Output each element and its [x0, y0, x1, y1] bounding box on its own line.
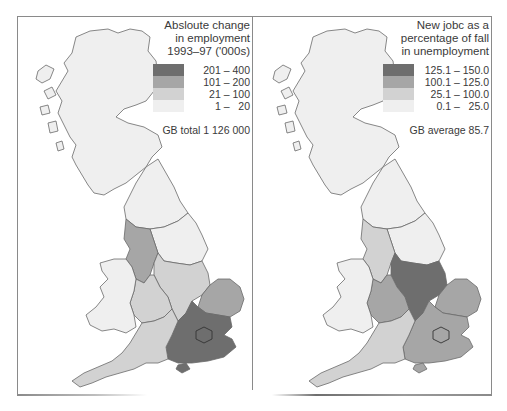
- legend-title-line-3: in unemployment: [381, 45, 489, 58]
- legend-row: 21 – 100: [150, 88, 250, 100]
- region-london: [433, 327, 449, 343]
- legend-row: 0.1 – 25.0: [381, 100, 489, 112]
- legend-label: 1 – 20: [184, 100, 250, 113]
- legend-swatch: [383, 100, 414, 112]
- legend-swatch: [383, 64, 414, 76]
- frame-right-edge: [491, 16, 492, 395]
- region-london: [196, 327, 212, 343]
- legend-swatch: [153, 88, 184, 100]
- legend-classes: 201 – 400 101 – 200 21 – 100 1 – 20: [150, 64, 250, 112]
- region-wales: [323, 259, 373, 333]
- legend-title-line-1: New jobc as a: [381, 19, 489, 32]
- legend-swatch: [153, 76, 184, 88]
- legend-row: 101 – 200: [150, 76, 250, 88]
- frame-bottom-right: [272, 394, 492, 396]
- legend-swatch: [153, 64, 184, 76]
- legend-row: 1 – 20: [150, 100, 250, 112]
- legend-title-line-1: Absloute change: [150, 19, 250, 32]
- legend-swatch: [383, 76, 414, 88]
- legend-row: 25.1 – 100.0: [381, 88, 489, 100]
- legend-title-line-3: 1993–97 ('000s): [150, 45, 250, 58]
- legend-title-line-2: percentage of fall: [381, 32, 489, 45]
- region-wales: [86, 259, 136, 333]
- legend-row: 125.1 – 150.0: [381, 64, 489, 76]
- region-isle-of-wight: [413, 363, 427, 373]
- map-panel-new-jobs-percentage: New jobc as a percentage of fall in unem…: [253, 17, 491, 393]
- legend-label: 0.1 – 25.0: [414, 100, 489, 113]
- region-isle-of-wight: [176, 363, 190, 373]
- legend-swatch: [383, 88, 414, 100]
- legend-classes: 125.1 – 150.0 100.1 – 125.0 25.1 – 100.0…: [381, 64, 489, 112]
- map-panel-employment-change: Absloute change in employment 1993–97 ('…: [18, 17, 252, 393]
- legend-row: 201 – 400: [150, 64, 250, 76]
- legend-note-gb-average: GB average 85.7: [381, 124, 489, 137]
- legend-title-line-2: in employment: [150, 32, 250, 45]
- legend-employment-change: Absloute change in employment 1993–97 ('…: [150, 19, 250, 137]
- legend-swatch: [153, 100, 184, 112]
- legend-row: 100.1 – 125.0: [381, 76, 489, 88]
- frame-bottom-left: [17, 394, 147, 396]
- legend-note-gb-total: GB total 1 126 000: [150, 124, 250, 137]
- legend-new-jobs-percentage: New jobc as a percentage of fall in unem…: [381, 19, 489, 137]
